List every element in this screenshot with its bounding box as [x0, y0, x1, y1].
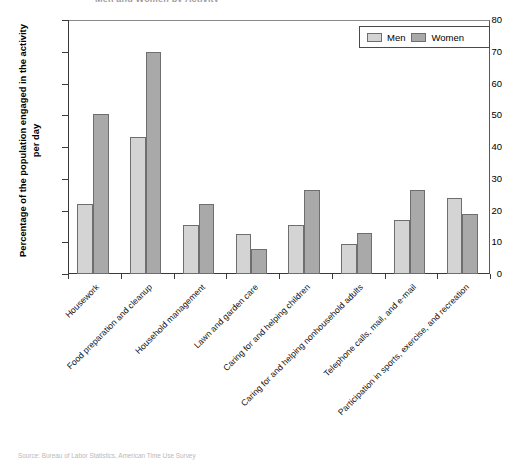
x-category-label: Food preparation and cleanup: [65, 282, 154, 371]
x-category-label: Telephone calls, mail, and e-mail: [322, 282, 418, 378]
x-axis-labels: HouseworkFood preparation and cleanupHou…: [0, 0, 510, 462]
footer-caption-cutoff: Source: Bureau of Labor Statistics, Amer…: [18, 452, 318, 461]
x-category-label: Housework: [64, 282, 102, 320]
bar-chart-figure: Men and Women by Activity Percentage of …: [0, 0, 510, 462]
x-category-label: Caring for and helping children: [222, 282, 313, 373]
